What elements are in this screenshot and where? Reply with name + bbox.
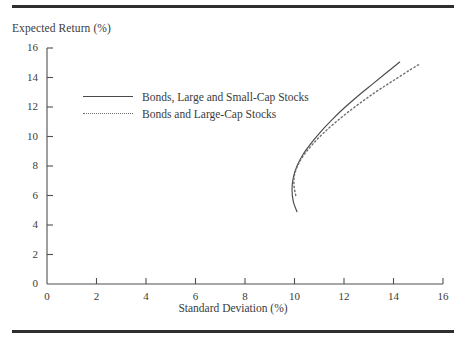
- y-axis-tick-label: 0: [16, 277, 38, 289]
- legend-line-dotted-icon: [83, 109, 133, 119]
- y-axis-tick-label: 14: [16, 71, 38, 83]
- x-axis-tick-label: 0: [35, 290, 59, 302]
- chart-legend: Bonds, Large and Small-Cap Stocks Bonds …: [83, 88, 343, 122]
- y-axis-ticks: [47, 48, 53, 255]
- y-axis-tick-label: 8: [16, 159, 38, 171]
- y-axis-tick-label: 4: [16, 218, 38, 230]
- y-axis-tick-label: 12: [16, 100, 38, 112]
- x-axis-tick-label: 6: [184, 290, 208, 302]
- y-axis-tick-label: 10: [16, 130, 38, 142]
- series-line: [294, 64, 420, 195]
- x-axis-ticks: [97, 278, 444, 284]
- chart-figure: Expected Return (%) Standard Deviation (…: [0, 0, 466, 342]
- y-axis-tick-label: 6: [16, 189, 38, 201]
- series-line: [292, 62, 400, 212]
- y-axis-tick-label: 2: [16, 248, 38, 260]
- x-axis-tick-label: 8: [233, 290, 257, 302]
- x-axis-tick-label: 2: [85, 290, 109, 302]
- legend-item-label: Bonds, Large and Small-Cap Stocks: [142, 91, 309, 103]
- x-axis-tick-label: 16: [431, 290, 455, 302]
- y-axis-tick-label: 16: [16, 41, 38, 53]
- x-axis-tick-label: 14: [382, 290, 406, 302]
- legend-item-label: Bonds and Large-Cap Stocks: [142, 108, 276, 120]
- x-axis-tick-label: 10: [283, 290, 307, 302]
- x-axis-tick-label: 12: [332, 290, 356, 302]
- x-axis-tick-label: 4: [134, 290, 158, 302]
- legend-line-solid-icon: [83, 92, 133, 102]
- legend-item: Bonds, Large and Small-Cap Stocks: [83, 88, 343, 105]
- axes: [47, 48, 443, 284]
- data-series-group: [292, 62, 419, 212]
- legend-item: Bonds and Large-Cap Stocks: [83, 105, 343, 122]
